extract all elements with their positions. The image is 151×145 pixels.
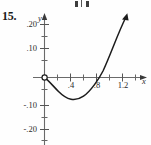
x-tick-label-0.8: .8 [87,80,107,90]
y-tick-label-0.10: .10 [11,43,37,53]
plot-area: .20 .10 -.10 -.20 .4 .8 1.2 y x [0,0,151,145]
x-tick-label-0.4: .4 [61,80,81,90]
y-tick-label-0.20: .20 [11,19,37,29]
y-tick-label-neg-0.20: -.20 [11,124,37,134]
x-axis-name: x [142,76,146,86]
y-tick-label-neg-0.10: -.10 [11,100,37,110]
figure-panel: 15. [0,0,151,145]
x-tick-label-1.2: 1.2 [113,80,133,90]
y-axis-name: y [38,13,42,23]
curve-arrowhead-icon [122,13,129,20]
y-axis-arrowhead-icon [42,13,47,20]
open-circle-point-icon [42,75,47,80]
